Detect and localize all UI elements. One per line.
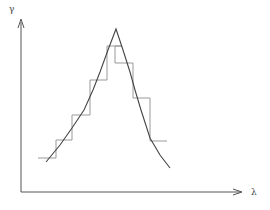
y-axis-label: γ xyxy=(9,4,14,14)
x-axis-label: λ xyxy=(251,187,257,197)
peak-curve xyxy=(46,29,170,168)
y-axis xyxy=(18,19,24,192)
x-axis xyxy=(21,189,242,195)
step-approximation xyxy=(38,46,167,158)
diagram-canvas xyxy=(0,0,270,210)
